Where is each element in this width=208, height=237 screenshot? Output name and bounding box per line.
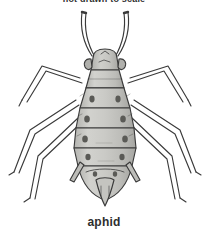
aphid-illustration: [0, 0, 208, 237]
midleg-left: [9, 100, 79, 175]
aphid-figure: not drawn to scale: [0, 0, 208, 237]
hindleg-left: [24, 118, 81, 202]
abdomen-segment-4: [74, 148, 136, 166]
antenna-right: [115, 12, 129, 57]
hindleg-right: [129, 118, 186, 202]
eye-right: [118, 59, 126, 70]
head: [84, 49, 125, 70]
antenna-left: [81, 12, 95, 57]
foreleg-left: [19, 66, 82, 106]
midleg-right: [131, 100, 201, 175]
figure-bottom-caption: aphid: [0, 215, 208, 229]
eye-left: [84, 59, 92, 70]
thorax: [86, 70, 124, 88]
foreleg-right: [128, 66, 191, 106]
abdomen-segment-1: [80, 88, 130, 108]
